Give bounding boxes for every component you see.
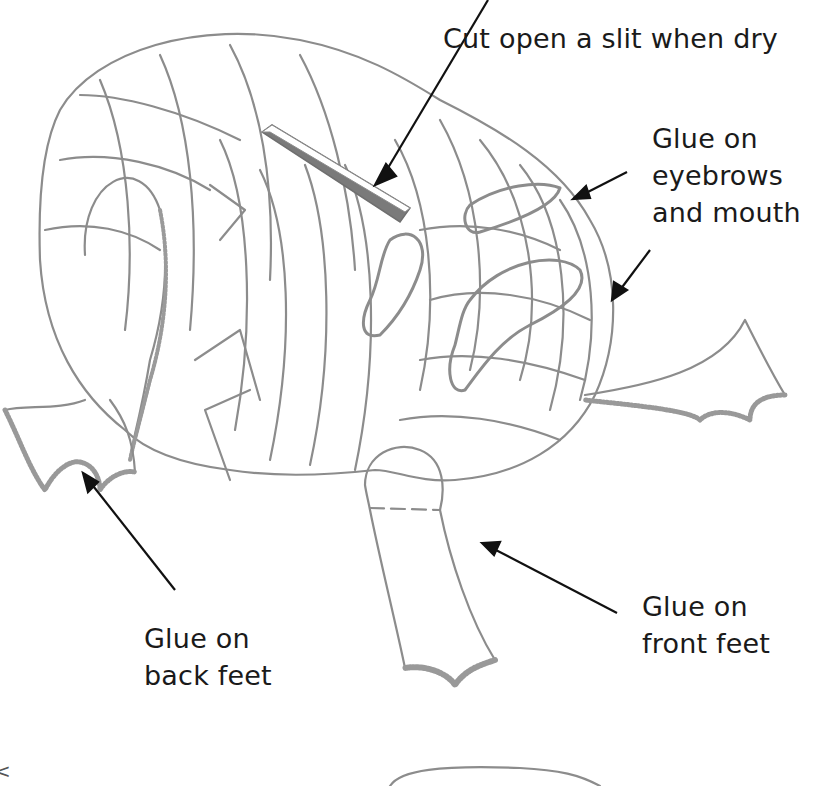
eyebrow-right bbox=[363, 234, 422, 336]
label-front-feet-line-1: Glue on bbox=[642, 588, 770, 625]
arrow-front-feet bbox=[492, 548, 617, 613]
label-front-feet-line-2: front feet bbox=[642, 625, 770, 662]
label-face-line-3: and mouth bbox=[652, 194, 801, 231]
arrow-mouth bbox=[620, 250, 650, 290]
turtle-illustration bbox=[0, 0, 813, 786]
label-back-feet: Glue on back feet bbox=[144, 620, 272, 694]
back-leg bbox=[85, 178, 165, 460]
label-back-feet-line-1: Glue on bbox=[144, 620, 272, 657]
edge-mark: < bbox=[0, 760, 11, 782]
label-slit-line-1: Cut open a slit when dry bbox=[443, 20, 778, 57]
arrow-back-feet bbox=[90, 482, 175, 590]
label-face: Glue on eyebrows and mouth bbox=[652, 120, 801, 231]
label-face-line-2: eyebrows bbox=[652, 157, 801, 194]
front-leg bbox=[365, 447, 495, 685]
label-slit: Cut open a slit when dry bbox=[443, 20, 778, 57]
label-front-feet: Glue on front feet bbox=[642, 588, 770, 662]
label-face-line-1: Glue on bbox=[652, 120, 801, 157]
label-back-feet-line-2: back feet bbox=[144, 657, 272, 694]
